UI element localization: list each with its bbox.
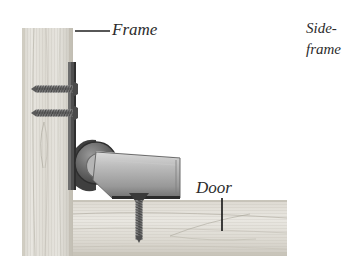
label-side-frame: Side- frame	[306, 18, 341, 60]
hinge-leaf-door	[93, 152, 180, 199]
label-side-frame-line1: Side-	[306, 18, 341, 39]
label-frame: Frame	[112, 20, 157, 40]
figure-canvas: Frame Door Side- frame	[0, 0, 352, 276]
door-board	[73, 200, 287, 256]
label-side-frame-line2: frame	[306, 39, 341, 60]
hinge-diagram-illustration	[0, 0, 352, 276]
frame-board	[22, 28, 73, 256]
hinge-leaf-frame	[68, 62, 76, 190]
label-door: Door	[196, 178, 232, 198]
